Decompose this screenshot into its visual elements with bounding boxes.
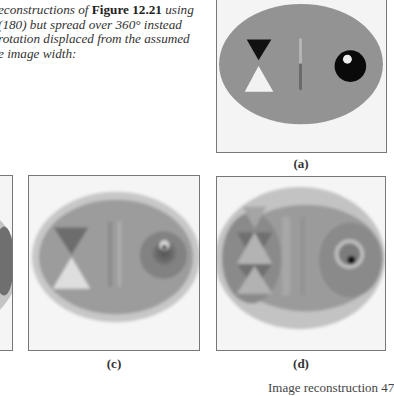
phantom-reconstruction-c: [29, 176, 199, 350]
figure-reference: Figure 12.21: [92, 2, 162, 17]
caption-line-1: econstructions of Figure 12.21 using: [0, 3, 213, 18]
panel-a-label: (a): [281, 156, 321, 172]
caption-line-4: e image width:: [0, 47, 213, 62]
panel-b-image: [0, 175, 13, 351]
figure-caption: econstructions of Figure 12.21 using (18…: [0, 3, 213, 61]
panel-c-image: [28, 175, 200, 351]
caption-text: using: [162, 2, 194, 17]
panel-c-label: (c): [94, 356, 134, 372]
phantom-reconstruction-a: [217, 0, 386, 152]
phantom-reconstruction-d: [217, 177, 385, 350]
panel-d-label: (d): [281, 356, 321, 372]
caption-line-3: rotation displaced from the assumed: [0, 32, 213, 47]
phantom-reconstruction-b: [0, 176, 12, 350]
panel-a-image: [216, 0, 387, 153]
caption-line-2: (180) but spread over 360° instead: [0, 18, 213, 33]
panel-d-image: [216, 176, 386, 351]
page-running-footer: Image reconstruction 47: [268, 380, 394, 396]
caption-text: econstructions of: [0, 2, 92, 17]
